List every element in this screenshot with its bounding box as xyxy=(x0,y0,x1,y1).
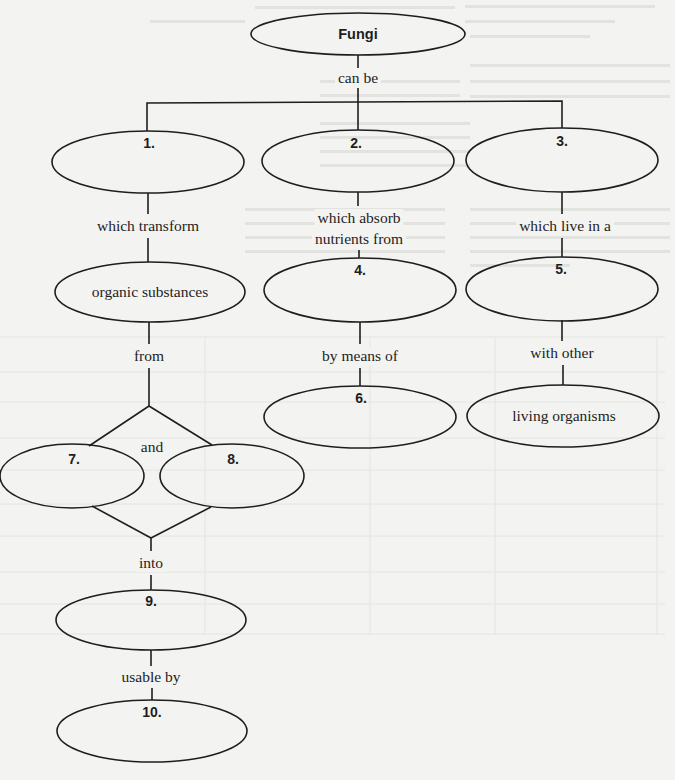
concept-map-graphics xyxy=(0,0,675,780)
node-3-number: 3. xyxy=(556,133,568,149)
link-from: from xyxy=(131,347,167,365)
node-5-number: 5. xyxy=(555,261,567,277)
node-living-label: living organisms xyxy=(512,407,615,425)
link-with-other: with other xyxy=(527,344,596,362)
link-which-live-in-a: which live in a xyxy=(516,217,614,235)
link-usable-by: usable by xyxy=(119,668,184,686)
link-which-absorb-line2: nutrients from xyxy=(312,230,406,248)
node-2-number: 2. xyxy=(350,135,362,151)
link-which-transform: which transform xyxy=(94,217,202,235)
node-organic-label: organic substances xyxy=(92,283,208,301)
link-and: and xyxy=(141,438,163,456)
node-10-number: 10. xyxy=(142,704,161,720)
node-7-number: 7. xyxy=(68,451,80,467)
node-6-number: 6. xyxy=(355,390,367,406)
node-fungi-label: Fungi xyxy=(338,26,377,43)
node-shapes xyxy=(0,13,659,762)
node-1-number: 1. xyxy=(143,135,155,151)
node-9-number: 9. xyxy=(145,593,157,609)
bleed-through-background xyxy=(0,5,670,634)
node-4-number: 4. xyxy=(354,262,366,278)
link-which-absorb-line1: which absorb xyxy=(314,209,403,227)
node-8-number: 8. xyxy=(227,451,239,467)
worksheet-page: Fungi 1. 2. 3. organic substances 4. 5. … xyxy=(0,0,675,780)
link-can-be: can be xyxy=(335,69,381,87)
link-into: into xyxy=(136,554,166,572)
link-by-means-of: by means of xyxy=(319,347,401,365)
